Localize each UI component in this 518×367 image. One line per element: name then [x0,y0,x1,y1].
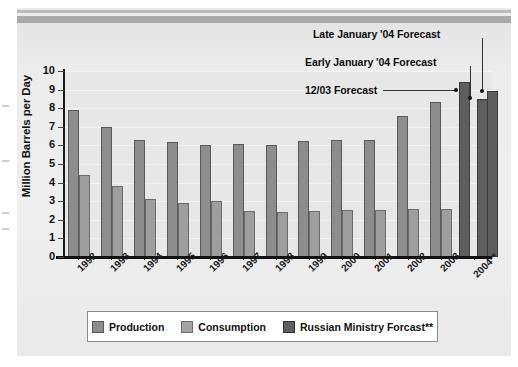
chart-legend: ProductionConsumptionRussian Ministry Fo… [87,311,438,342]
legend-swatch-icon [283,321,295,333]
legend-label: Consumption [198,321,266,333]
legend-label: Production [109,321,164,333]
annotation-december-forecast: 12/03 Forecast [305,84,377,96]
x-axis-tick-label-1999: 1999 [306,250,330,274]
x-axis-tick-label-2000: 2000 [339,250,363,274]
x-axis-tick-label-1994: 1994 [141,250,165,274]
x-axis-tick-mark [408,256,409,260]
x-axis-tick-label-2001: 2001 [372,250,396,274]
chart-page: Million Barrels per Day 109876543210 199… [0,0,518,367]
leader-line-late-january [482,38,483,91]
x-axis-tick-mark [144,256,145,260]
x-axis-tick-label-1997: 1997 [240,250,264,274]
x-axis-tick-label-1998: 1998 [273,250,297,274]
x-axis-tick-mark [210,256,211,260]
leader-dot-december [454,88,458,92]
x-axis-tick-mark [309,256,310,260]
x-axis-tick-mark [111,256,112,260]
x-axis-tick-mark [342,256,343,260]
legend-swatch-icon [92,321,104,333]
x-axis-tick-label-1992: 1992 [75,250,99,274]
x-axis-tick-mark [474,256,475,260]
leader-line-early-january [470,66,471,98]
x-axis-tick-label-1995: 1995 [174,250,198,274]
legend-label: Russian Ministry Forcast** [300,321,433,333]
annotation-late-january: Late January '04 Forecast [313,28,440,40]
legend-item-production[interactable]: Production [92,321,164,333]
x-axis-tick-mark [243,256,244,260]
x-axis-tick-label-2002: 2002 [405,250,429,274]
x-axis-tick-mark [276,256,277,260]
x-axis-tick-label-2004: 2004** [471,251,500,280]
annotation-early-january: Early January '04 Forecast [305,56,436,68]
leader-dot-late-january [480,89,484,93]
leader-dot-early-january [468,96,472,100]
x-axis-tick-mark [441,256,442,260]
x-axis-tick-label-1993: 1993 [108,250,132,274]
legend-item-russian-ministry-forcast[interactable]: Russian Ministry Forcast** [283,321,433,333]
x-axis-tick-mark [177,256,178,260]
x-axis-tick-mark [78,256,79,260]
legend-swatch-icon [181,321,193,333]
x-axis-tick-mark [375,256,376,260]
leader-line-december [383,90,456,91]
legend-item-consumption[interactable]: Consumption [181,321,266,333]
x-axis-tick-label-2003: 2003 [438,250,462,274]
x-axis-tick-label-1996: 1996 [207,250,231,274]
